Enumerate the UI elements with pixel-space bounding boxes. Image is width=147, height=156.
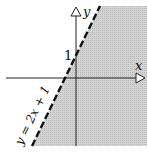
inequality-graph: x y 1 y = 2x + 1 xyxy=(0,0,147,156)
y-axis-arrow-icon xyxy=(71,7,81,16)
x-axis-label: x xyxy=(135,58,143,73)
y-axis-label: y xyxy=(82,4,91,19)
y-intercept-label: 1 xyxy=(64,48,72,63)
